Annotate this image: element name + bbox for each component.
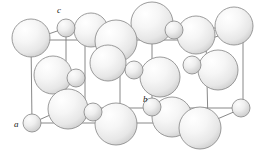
small-atom-sphere [84,103,102,121]
crystal-structure-diagram: abc [0,0,274,150]
small-atom-sphere [165,21,183,39]
axis-label-a: a [14,119,19,129]
large-atom-sphere-body [140,57,180,97]
axis-label-b: b [143,94,148,104]
large-atom-sphere [48,89,88,129]
large-atom-sphere [90,45,126,81]
small-atom-sphere [183,56,201,74]
large-atom-sphere [198,50,238,90]
large-atom-sphere [34,56,72,94]
small-atom-sphere-body [183,56,201,74]
small-atom-sphere-body [232,99,250,117]
large-atom-sphere-body [12,19,50,57]
large-atom-sphere [12,19,50,57]
crystal-structure-figure: abc [0,0,274,150]
small-atom-sphere-body [57,19,75,37]
small-atom-sphere-body [125,61,143,79]
small-atom-sphere [57,19,75,37]
large-atom-sphere [177,16,215,54]
small-atom-sphere [67,69,85,87]
large-atom-sphere [131,2,173,44]
large-atom-sphere-body [198,50,238,90]
large-atom-sphere-body [215,7,253,45]
large-atom-sphere-body [90,45,126,81]
large-atom-sphere-body [177,16,215,54]
large-atom-sphere [179,107,221,149]
small-atom-sphere-body [67,69,85,87]
large-atom-sphere [140,57,180,97]
large-atom-sphere-body [131,2,173,44]
small-atom-sphere-body [165,21,183,39]
large-atom-sphere-body [48,89,88,129]
small-atom-sphere [125,61,143,79]
small-atom-sphere [23,114,41,132]
axis-label-c: c [57,5,61,15]
small-atom-sphere-body [84,103,102,121]
large-atom-sphere-body [34,56,72,94]
small-atom-sphere [232,99,250,117]
large-atom-sphere-body [179,107,221,149]
large-atom-sphere [215,7,253,45]
small-atom-sphere-body [23,114,41,132]
